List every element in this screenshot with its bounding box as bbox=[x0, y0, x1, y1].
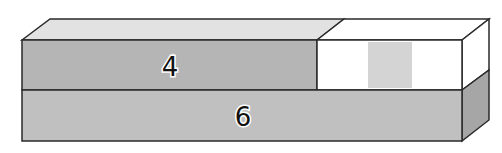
bar-model-svg: 4 6 bbox=[0, 0, 502, 153]
top-bar-unknown-top-face bbox=[317, 19, 489, 40]
bottom-bar-label: 6 bbox=[235, 102, 252, 132]
top-bar-known-top-face bbox=[22, 19, 344, 40]
bar-model-diagram: 4 6 bbox=[0, 0, 502, 153]
unknown-placeholder-square bbox=[368, 42, 412, 88]
top-bar-known-label: 4 bbox=[162, 52, 179, 82]
